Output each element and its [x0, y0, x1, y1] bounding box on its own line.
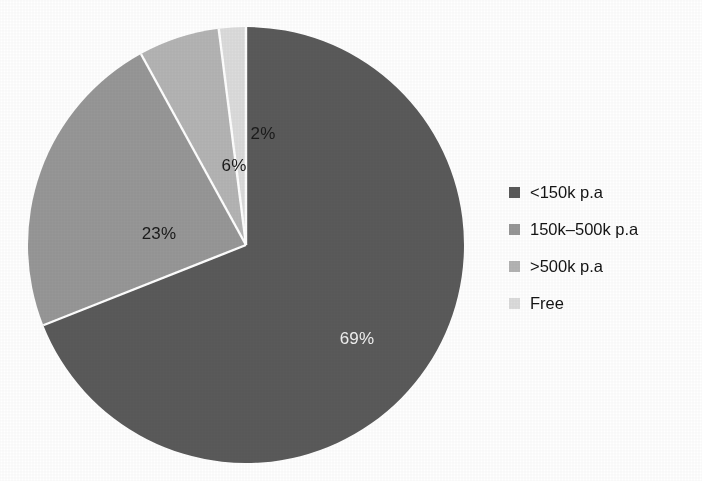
legend-item-over-500k[interactable]: >500k p.a: [509, 255, 689, 277]
chart-legend: <150k p.a 150k–500k p.a >500k p.a Free: [509, 181, 689, 314]
pie-label-under-150k: 69%: [340, 329, 375, 348]
legend-label: Free: [530, 295, 564, 312]
legend-swatch-icon: [509, 298, 520, 309]
legend-swatch-icon: [509, 187, 520, 198]
pie-label-over-500k: 6%: [222, 156, 247, 175]
legend-swatch-icon: [509, 261, 520, 272]
pie-label-150k-500k: 23%: [142, 224, 177, 243]
pie-chart-plot-area: 69% 23% 6% 2%: [27, 26, 465, 464]
pie-chart-svg: 69% 23% 6% 2%: [27, 26, 465, 464]
legend-item-under-150k[interactable]: <150k p.a: [509, 181, 689, 203]
pie-chart-figure: 69% 23% 6% 2% <150k p.a 150k–500k p.a >5…: [0, 0, 702, 481]
legend-item-150k-500k[interactable]: 150k–500k p.a: [509, 218, 689, 240]
legend-label: 150k–500k p.a: [530, 221, 638, 238]
legend-swatch-icon: [509, 224, 520, 235]
legend-label: >500k p.a: [530, 258, 603, 275]
legend-item-free[interactable]: Free: [509, 292, 689, 314]
pie-label-free: 2%: [251, 124, 276, 143]
legend-label: <150k p.a: [530, 184, 603, 201]
